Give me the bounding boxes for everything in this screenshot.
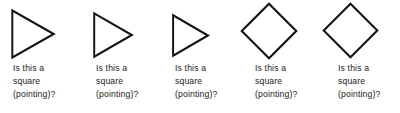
caption-line: Is this a <box>255 62 298 75</box>
caption-line: square <box>175 75 218 88</box>
caption-line: (pointing)? <box>13 88 56 101</box>
caption-line: square <box>13 75 56 88</box>
shape-caption: Is this a square (pointing)? <box>13 62 56 101</box>
shape-caption: Is this a square (pointing)? <box>175 62 218 101</box>
caption-line: (pointing)? <box>96 88 139 101</box>
shape-triangle-pointing-right <box>93 12 133 58</box>
shape-caption: Is this a square (pointing)? <box>96 62 139 101</box>
shape-diamond-square-rotated <box>322 2 379 59</box>
caption-line: (pointing)? <box>338 88 381 101</box>
shape-triangle-pointing-right <box>172 14 209 57</box>
shape-triangle-pointing-right <box>11 9 55 59</box>
shape-caption: Is this a square (pointing)? <box>338 62 381 101</box>
caption-line: (pointing)? <box>255 88 298 101</box>
caption-line: Is this a <box>96 62 139 75</box>
caption-line: Is this a <box>338 62 381 75</box>
shape-caption: Is this a square (pointing)? <box>255 62 298 101</box>
caption-line: Is this a <box>175 62 218 75</box>
caption-line: Is this a <box>13 62 56 75</box>
shape-diamond-square-rotated <box>240 2 298 60</box>
caption-line: (pointing)? <box>175 88 218 101</box>
figure-canvas: Is this a square (pointing)? Is this a s… <box>0 0 400 113</box>
caption-line: square <box>338 75 381 88</box>
caption-line: square <box>96 75 139 88</box>
caption-line: square <box>255 75 298 88</box>
